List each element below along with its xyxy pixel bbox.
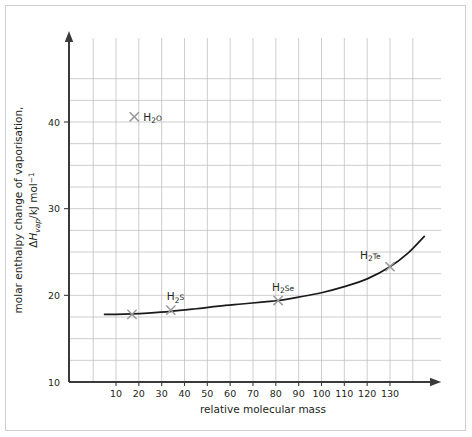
trend-curve <box>105 236 425 314</box>
point-label-H2O: H2O <box>143 111 162 126</box>
x-tick-label: 20 <box>133 388 145 399</box>
x-tick-label: 70 <box>247 388 259 399</box>
axis-titles: relative molecular massmolar enthalpy ch… <box>12 107 326 415</box>
data-point-labels: H2OH2SH2SeH2Te <box>143 111 381 305</box>
x-tick-label: 10 <box>110 388 122 399</box>
x-tick-label: 80 <box>270 388 282 399</box>
x-tick-label: 50 <box>201 388 213 399</box>
axis-tick-labels: 10203040506070809010011012013010203040 <box>48 117 399 400</box>
x-tick-label: 120 <box>358 388 376 399</box>
y-tick-label: 30 <box>48 203 60 214</box>
x-tick-label: 130 <box>381 388 399 399</box>
grid-lines <box>69 38 441 382</box>
x-axis-title: relative molecular mass <box>200 403 326 415</box>
point-label-H2Te: H2Te <box>360 249 381 264</box>
chart-plot: 10203040506070809010011012013010203040 H… <box>0 0 472 437</box>
point-label-H2S: H2S <box>167 290 185 305</box>
x-tick-label: 90 <box>293 388 305 399</box>
x-tick-label: 100 <box>312 388 330 399</box>
axis-ticks <box>64 122 390 386</box>
x-tick-label: 60 <box>224 388 236 399</box>
y-tick-label: 20 <box>48 290 60 301</box>
data-points <box>127 112 394 319</box>
data-point-marker <box>130 112 139 121</box>
y-tick-label: 40 <box>48 117 60 128</box>
x-tick-label: 40 <box>178 388 190 399</box>
x-tick-label: 30 <box>156 388 168 399</box>
chart-figure: 10203040506070809010011012013010203040 H… <box>0 0 472 437</box>
y-axis-title-line1: molar enthalpy change of vaporisation, <box>12 107 24 314</box>
x-tick-label: 110 <box>335 388 353 399</box>
y-axis-title-line2: ΔHvap/kJ mol−1 <box>27 172 42 248</box>
y-tick-label: 10 <box>48 377 60 388</box>
data-point-marker <box>166 305 175 314</box>
